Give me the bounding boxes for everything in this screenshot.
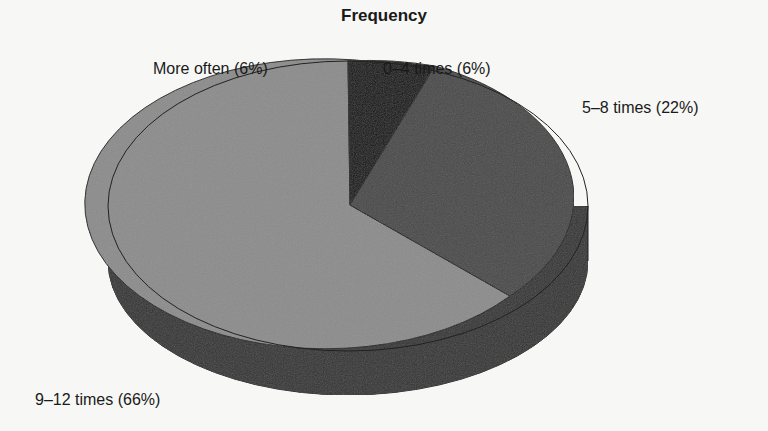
label-more-often: More often (6%) xyxy=(153,60,268,78)
label-9-12-times: 9–12 times (66%) xyxy=(35,391,160,409)
label-5-8-times: 5–8 times (22%) xyxy=(582,99,699,117)
label-0-4-times: 0–4 times (6%) xyxy=(383,60,491,78)
